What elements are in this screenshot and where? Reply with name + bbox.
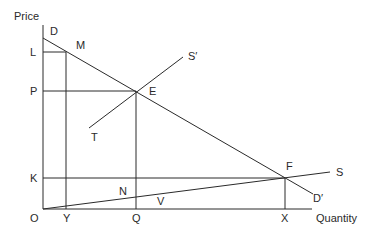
demand-start-label: D <box>50 25 58 37</box>
supply-flat-end-label: S <box>336 166 343 178</box>
price-label-L: L <box>30 46 36 58</box>
point-label-V: V <box>157 195 165 207</box>
y-axis-label: Price <box>14 10 39 22</box>
point-label-F: F <box>286 160 293 172</box>
point-label-N: N <box>119 185 127 197</box>
demand-end-label: D′ <box>313 192 323 204</box>
quantity-label-Q: Q <box>132 212 141 224</box>
economics-diagram: Price Quantity O L P K Y Q X D D′ T S′ S… <box>0 0 368 236</box>
price-label-P: P <box>30 85 37 97</box>
price-label-K: K <box>30 172 38 184</box>
supply-steep-start-label: T <box>91 131 98 143</box>
x-axis-label: Quantity <box>316 212 357 224</box>
quantity-label-X: X <box>281 212 289 224</box>
supply-steep-end-label: S′ <box>188 50 197 62</box>
point-label-E: E <box>149 85 156 97</box>
quantity-label-Y: Y <box>63 212 71 224</box>
origin-label: O <box>30 212 39 224</box>
point-label-M: M <box>76 39 85 51</box>
